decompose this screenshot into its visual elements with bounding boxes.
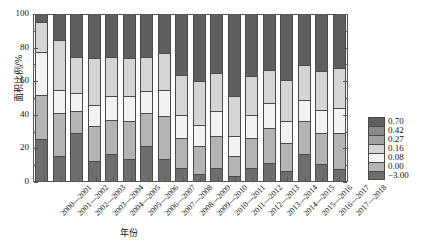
bar-segment-0.16 (229, 96, 240, 136)
bar-segment--3.00 (159, 159, 170, 181)
bar-segment-0.08 (281, 121, 292, 143)
legend-swatch-0.16 (368, 144, 385, 153)
bar-2006—2007[interactable] (140, 15, 153, 181)
bar-segment-0.70 (159, 15, 170, 53)
bar-segment-0.70 (316, 15, 327, 71)
bar-2016—2017[interactable] (315, 15, 328, 181)
y-minor-tick-right (345, 31, 347, 32)
y-tick-mark-right (343, 81, 347, 82)
bar-segment-0.08 (71, 93, 82, 111)
bar-2017—2018[interactable] (333, 15, 346, 181)
x-axis-tick-labels: 2000—20012001—20022002—20032003—20042004… (33, 183, 348, 243)
bar-2003—2004[interactable] (88, 15, 101, 181)
bar-segment-0.08 (334, 108, 345, 133)
bar-2014—2015[interactable] (280, 15, 293, 181)
bar-segment-0.00 (299, 121, 310, 154)
y-tick-label-60: 60 (7, 76, 29, 85)
bar-segment-0.16 (176, 75, 187, 115)
x-tick-mark (44, 177, 45, 181)
legend-swatch-0.00 (368, 162, 385, 171)
bar-segment-0.08 (229, 136, 240, 156)
x-tick-mark (235, 177, 236, 181)
y-tick-label-40: 40 (7, 110, 29, 119)
y-minor-tick (34, 64, 36, 65)
bar-segment-0.00 (316, 133, 327, 165)
bar-segment-0.00 (36, 95, 47, 140)
bar-segment-0.70 (54, 15, 65, 40)
x-tick-mark (339, 177, 340, 181)
bar-segment-0.70 (141, 15, 152, 57)
y-tick-mark-right (343, 115, 347, 116)
bar-segment-0.16 (211, 73, 222, 111)
x-tick-mark (270, 177, 271, 181)
x-tick-mark (305, 177, 306, 181)
bar-2009—2010[interactable] (193, 15, 206, 181)
bar-segment-0.16 (246, 76, 257, 114)
x-axis-title: 年份 (120, 226, 138, 239)
bar-segment-0.16 (316, 71, 327, 109)
bar-group (34, 15, 347, 181)
bar-2000—2001[interactable] (35, 15, 48, 181)
bar-segment-0.70 (124, 15, 135, 58)
bar-2005—2006[interactable] (123, 15, 136, 181)
bar-segment-0.70 (211, 15, 222, 73)
bar-2013—2014[interactable] (263, 15, 276, 181)
bar-segment-0.08 (124, 96, 135, 121)
plot-area (33, 14, 348, 182)
y-tick-label-0: 0 (7, 177, 29, 186)
bar-segment-0.70 (299, 15, 310, 65)
bar-2001—2002[interactable] (53, 15, 66, 181)
x-tick-mark (183, 177, 184, 181)
bar-2004—2005[interactable] (105, 15, 118, 181)
y-tick-label-80: 80 (7, 43, 29, 52)
bar-segment-0.00 (141, 113, 152, 146)
bar-segment-0.70 (36, 15, 47, 22)
bar-segment-0.00 (334, 133, 345, 170)
bar-2011—2012[interactable] (228, 15, 241, 181)
bar-segment-0.08 (141, 91, 152, 113)
y-minor-tick-right (345, 165, 347, 166)
bar-2010—2011[interactable] (210, 15, 223, 181)
x-tick-mark (287, 177, 288, 181)
bar-segment--3.00 (124, 159, 135, 181)
bar-segment-0.00 (281, 143, 292, 171)
y-minor-tick (34, 165, 36, 166)
bar-segment-0.00 (54, 113, 65, 156)
x-tick-mark (148, 177, 149, 181)
y-axis-tick-labels: 020406080100 (7, 0, 29, 250)
bar-segment-0.16 (159, 53, 170, 90)
bar-segment-0.16 (89, 58, 100, 104)
bar-segment-0.00 (264, 128, 275, 163)
bar-2012—2013[interactable] (245, 15, 258, 181)
legend-swatch-−3.00 (368, 171, 385, 180)
bar-2007—2008[interactable] (158, 15, 171, 181)
legend-item-−3.00[interactable]: −3.00 (368, 171, 409, 180)
bar-segment--3.00 (176, 168, 187, 181)
bar-2015—2016[interactable] (298, 15, 311, 181)
x-tick-mark (218, 177, 219, 181)
bar-segment-0.00 (194, 146, 205, 174)
bar-2008—2009[interactable] (175, 15, 188, 181)
x-tick-mark (131, 177, 132, 181)
bar-segment-0.08 (316, 110, 327, 133)
y-minor-tick-right (345, 132, 347, 133)
y-tick-mark (34, 48, 38, 49)
bar-segment-0.00 (159, 116, 170, 159)
x-tick-mark (78, 177, 79, 181)
bar-segment-0.16 (106, 57, 117, 97)
bar-segment-0.08 (264, 103, 275, 128)
x-tick-mark (96, 177, 97, 181)
bar-segment-0.16 (124, 58, 135, 96)
y-minor-tick (34, 31, 36, 32)
bar-segment-0.00 (229, 156, 240, 176)
x-tick-mark (200, 177, 201, 181)
bar-segment--3.00 (106, 154, 117, 181)
y-minor-tick (34, 98, 36, 99)
bar-2002—2003[interactable] (70, 15, 83, 181)
bar-segment-0.70 (334, 15, 345, 68)
y-tick-mark (34, 81, 38, 82)
bar-segment-0.00 (71, 111, 82, 133)
bar-segment-0.70 (176, 15, 187, 75)
y-tick-mark (34, 14, 38, 15)
bar-segment-0.16 (54, 40, 65, 90)
